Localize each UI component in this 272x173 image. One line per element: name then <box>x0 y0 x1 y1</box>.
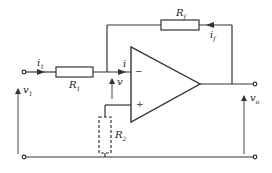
label-rf: Rf <box>176 8 186 20</box>
resistor-rf <box>161 20 199 30</box>
output-terminal <box>253 82 257 86</box>
inverting-sign: − <box>135 67 143 76</box>
circuit-diagram <box>0 0 272 173</box>
label-i: i <box>123 59 126 69</box>
label-r2: R2 <box>115 130 126 142</box>
label-if: if <box>210 30 215 42</box>
resistor-r2 <box>99 117 111 153</box>
bottom-left-terminal <box>22 155 26 159</box>
op-amp <box>131 47 200 122</box>
bottom-right-terminal <box>253 155 257 159</box>
label-vo: vo <box>250 93 259 105</box>
i-arrow-icon <box>118 69 126 75</box>
label-v: v <box>117 77 123 87</box>
input-terminal <box>22 70 26 74</box>
label-v1: v1 <box>23 85 32 97</box>
noninverting-sign: + <box>136 100 144 109</box>
resistor-r1 <box>56 67 93 77</box>
label-i1: i1 <box>37 58 44 70</box>
label-r1: R1 <box>69 80 80 92</box>
if-arrow-icon <box>206 22 214 28</box>
